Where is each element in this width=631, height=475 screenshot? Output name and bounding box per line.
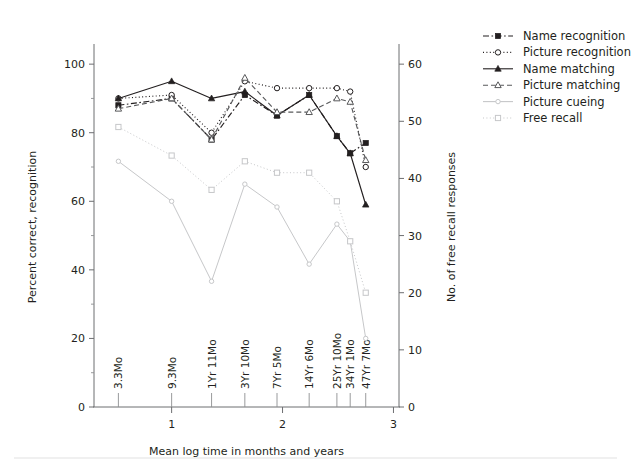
series-point-1-7 — [348, 89, 353, 94]
y-tick-label-right: 20 — [408, 287, 422, 300]
series-point-5-5 — [307, 170, 312, 175]
series-line-4 — [118, 161, 365, 338]
series-point-5-0 — [116, 124, 121, 129]
y-tick-label-left: 80 — [71, 127, 85, 140]
series-point-4-1 — [169, 199, 173, 203]
series-point-5-4 — [274, 170, 279, 175]
chart-figure: 0204060801000102030405060Percent correct… — [0, 0, 631, 475]
x-axis-title: Mean log time in months and years — [149, 445, 344, 458]
legend-marker-1 — [495, 50, 500, 55]
series-point-5-1 — [169, 153, 174, 158]
series-point-2-8 — [363, 201, 369, 207]
y-tick-label-left: 100 — [64, 58, 85, 71]
series-point-5-7 — [348, 239, 353, 244]
y-tick-label-right: 10 — [408, 344, 422, 357]
legend-item-2[interactable]: Name matching — [483, 62, 615, 76]
legend-item-0[interactable]: Name recognition — [483, 29, 625, 43]
y-tick-label-left: 40 — [71, 264, 85, 277]
series-point-2-3 — [242, 88, 248, 94]
y-tick-label-right: 0 — [408, 401, 415, 414]
series-point-4-5 — [307, 262, 311, 266]
x-category-label-6: 25Yr 10Mo — [331, 333, 343, 389]
legend-marker-0 — [495, 33, 500, 38]
x-category-label-2: 1Yr 11Mo — [206, 339, 218, 389]
series-point-2-1 — [168, 78, 174, 84]
x-tick-label-major: 2 — [279, 418, 286, 431]
legend-item-1[interactable]: Picture recognition — [483, 45, 631, 59]
y-tick-label-right: 60 — [408, 58, 422, 71]
series-point-4-4 — [275, 205, 279, 209]
legend-label-0: Name recognition — [523, 29, 625, 43]
series-point-5-2 — [209, 187, 214, 192]
legend-item-4[interactable]: Picture cueing — [483, 95, 605, 109]
series-point-1-2 — [209, 130, 214, 135]
y-axis-right-title: No. of free recall responses — [445, 152, 458, 302]
legend-label-2: Name matching — [523, 62, 615, 76]
series-point-4-8 — [364, 336, 368, 340]
series-line-5 — [118, 127, 365, 293]
legend-item-5[interactable]: Free recall — [483, 111, 582, 125]
x-category-label-7: 34Yr 1Mo — [344, 339, 356, 389]
series-point-5-6 — [334, 199, 339, 204]
series-point-1-8 — [363, 164, 368, 169]
x-category-label-1: 9.3Mo — [166, 357, 178, 389]
series-point-5-3 — [242, 159, 247, 164]
x-category-label-8: 47Yr 7Mo — [360, 339, 372, 389]
series-point-1-5 — [306, 85, 311, 90]
y-axis-left-title: Percent correct, recognition — [26, 151, 39, 303]
series-line-2 — [118, 81, 365, 204]
legend-marker-5 — [495, 115, 500, 120]
x-category-label-5: 14Yr 6Mo — [303, 339, 315, 389]
series-point-4-0 — [116, 159, 120, 163]
series-point-3-3 — [242, 74, 248, 80]
x-category-label-4: 7Yr 5Mo — [271, 346, 283, 389]
legend-item-3[interactable]: Picture matching — [483, 78, 620, 92]
series-point-3-6 — [334, 95, 340, 101]
x-tick-label-major: 3 — [390, 418, 397, 431]
series-point-4-6 — [335, 222, 339, 226]
series-point-1-6 — [334, 85, 339, 90]
line-chart-canvas: 0204060801000102030405060Percent correct… — [0, 0, 631, 475]
series-point-1-4 — [274, 85, 279, 90]
series-point-4-2 — [209, 279, 213, 283]
series-point-4-3 — [243, 182, 247, 186]
x-category-label-0: 3.3Mo — [112, 357, 124, 389]
y-tick-label-right: 50 — [408, 115, 422, 128]
y-tick-label-left: 0 — [78, 401, 85, 414]
x-tick-label-major: 1 — [168, 418, 175, 431]
x-category-label-3: 3Yr 10Mo — [239, 339, 251, 389]
legend-label-4: Picture cueing — [523, 95, 605, 109]
legend-label-5: Free recall — [523, 111, 582, 125]
y-tick-label-right: 30 — [408, 230, 422, 243]
y-tick-label-left: 20 — [71, 332, 85, 345]
legend-label-3: Picture matching — [523, 78, 620, 92]
y-tick-label-left: 60 — [71, 195, 85, 208]
series-line-3 — [118, 78, 365, 160]
legend-marker-4 — [496, 99, 500, 103]
y-tick-label-right: 40 — [408, 172, 422, 185]
series-point-0-8 — [363, 140, 368, 145]
legend-label-1: Picture recognition — [523, 45, 631, 59]
series-point-5-8 — [363, 290, 368, 295]
